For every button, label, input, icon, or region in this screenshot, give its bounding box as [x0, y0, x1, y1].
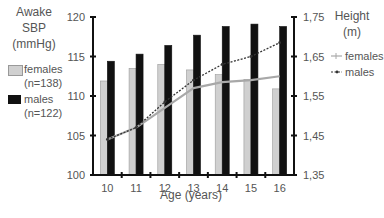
- marker-males: [192, 79, 195, 82]
- marker-males: [250, 55, 253, 58]
- right-tick-label: 1,35: [303, 169, 324, 181]
- marker-males: [221, 63, 224, 66]
- bar-females: [158, 64, 165, 175]
- left-tick-label: 110: [67, 90, 85, 102]
- bar-males: [280, 26, 287, 175]
- bar-females: [273, 89, 280, 175]
- left-tick-label: 100: [67, 169, 85, 181]
- bar-males: [251, 24, 258, 175]
- x-tick-label: 11: [130, 182, 141, 194]
- bar-males: [194, 35, 201, 175]
- left-tick-label: 115: [67, 51, 85, 63]
- right-tick-label: 1,45: [303, 130, 324, 142]
- right-tick-label: 1,75: [303, 11, 324, 23]
- marker-males: [135, 126, 138, 129]
- marker-males: [106, 138, 109, 141]
- x-tick-label: 16: [274, 182, 286, 194]
- bar-females: [100, 81, 107, 175]
- bar-males: [165, 45, 172, 175]
- marker-males: [163, 101, 166, 104]
- x-tick-label: 15: [245, 182, 257, 194]
- x-axis-title: Age (years): [160, 188, 222, 202]
- right-tick-label: 1,55: [303, 90, 324, 102]
- left-tick-label: 105: [67, 130, 85, 142]
- bar-females: [187, 70, 194, 175]
- bar-males: [136, 54, 143, 175]
- bar-females: [244, 79, 251, 175]
- bar-females: [215, 75, 222, 175]
- bar-males: [107, 61, 114, 175]
- x-tick-label: 10: [101, 182, 113, 194]
- bar-females: [129, 68, 136, 175]
- bar-males: [222, 26, 229, 175]
- marker-males: [278, 41, 281, 44]
- left-tick-label: 120: [67, 11, 85, 23]
- right-tick-label: 1,65: [303, 51, 324, 63]
